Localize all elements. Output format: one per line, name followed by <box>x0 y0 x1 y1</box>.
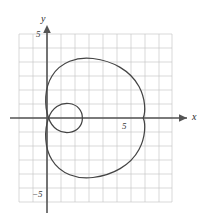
x-axis-label: x <box>192 112 196 122</box>
coordinate-plane-graph <box>0 0 206 219</box>
x-axis-arrow <box>179 114 187 122</box>
axes <box>10 27 187 213</box>
y-axis-label: y <box>41 14 45 24</box>
graph-figure: y x 5 −5 5 <box>0 0 206 219</box>
tick-label-y-5: 5 <box>36 30 41 39</box>
tick-label-y-minus-5: −5 <box>32 190 43 199</box>
tick-label-x-5: 5 <box>122 122 127 131</box>
y-axis-arrow <box>43 25 51 33</box>
